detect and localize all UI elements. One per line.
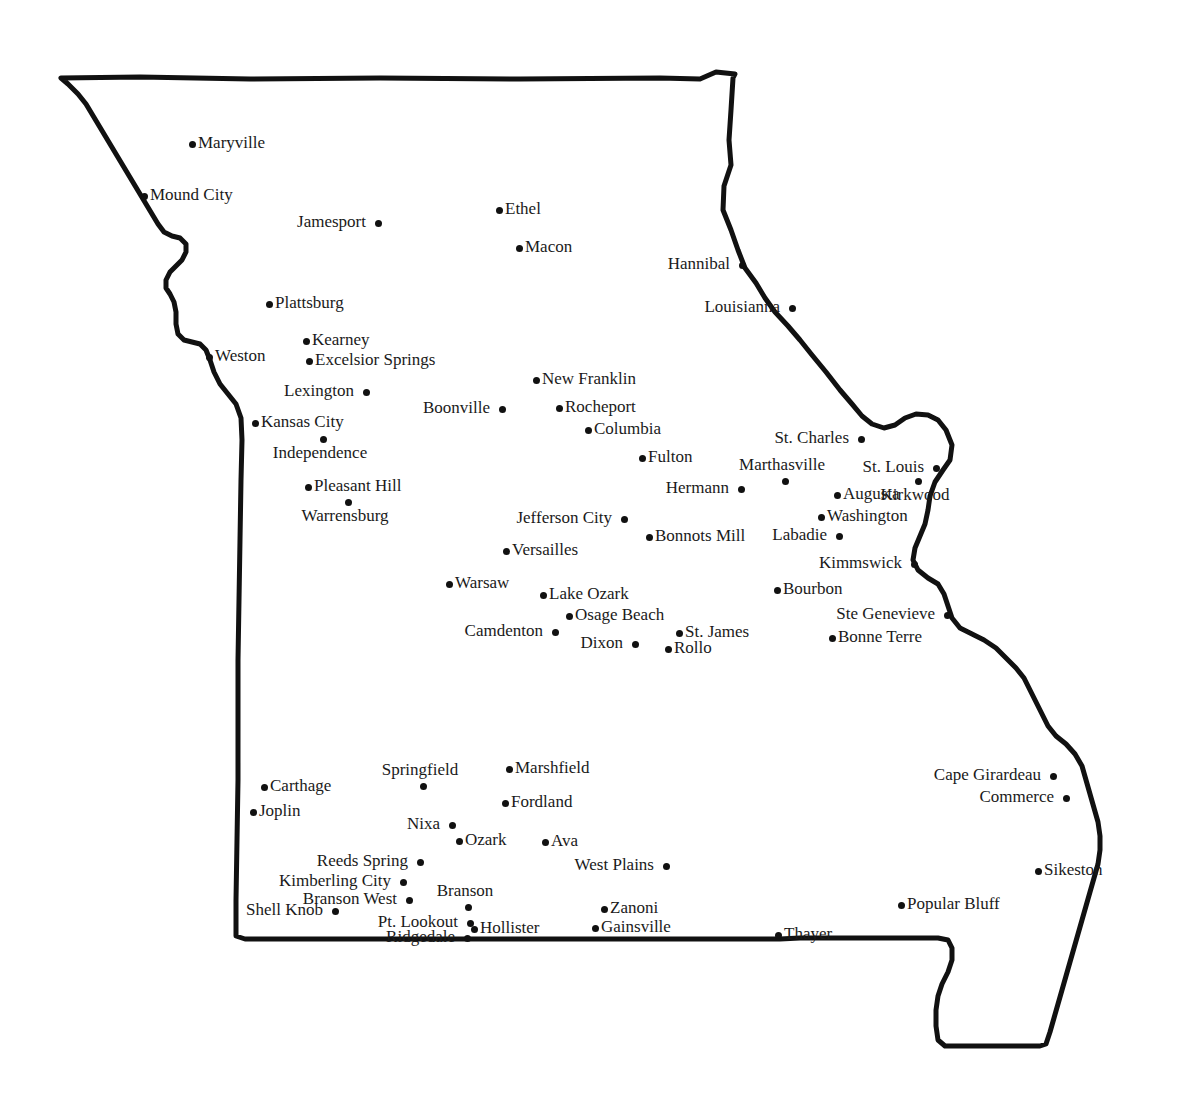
city-label: Marthasville bbox=[739, 456, 825, 473]
city-label: Jamesport bbox=[297, 213, 366, 230]
city-label: Ethel bbox=[505, 200, 541, 217]
city-dot-icon bbox=[601, 906, 608, 913]
city-label: Pleasant Hill bbox=[314, 477, 401, 494]
city-dot-icon bbox=[206, 354, 213, 361]
city-label: Columbia bbox=[594, 420, 661, 437]
city-dot-icon bbox=[676, 630, 683, 637]
city-label: Sikeston bbox=[1044, 861, 1103, 878]
city-dot-icon bbox=[400, 879, 407, 886]
city-label: Popular Bluff bbox=[907, 895, 1000, 912]
city-dot-icon bbox=[250, 809, 257, 816]
city-label: Macon bbox=[525, 238, 572, 255]
city-label: Versailles bbox=[512, 541, 578, 558]
city-label: Weston bbox=[215, 347, 266, 364]
city-dot-icon bbox=[141, 193, 148, 200]
city-label: Hermann bbox=[666, 479, 729, 496]
city-label: Joplin bbox=[259, 802, 301, 819]
city-dot-icon bbox=[1063, 795, 1070, 802]
city-dot-icon bbox=[502, 800, 509, 807]
city-label: Ozark bbox=[465, 831, 507, 848]
city-dot-icon bbox=[556, 405, 563, 412]
city-label: Rocheport bbox=[565, 398, 636, 415]
city-dot-icon bbox=[375, 220, 382, 227]
city-label: Maryville bbox=[198, 134, 265, 151]
city-label: Cape Girardeau bbox=[934, 766, 1041, 783]
city-dot-icon bbox=[496, 207, 503, 214]
city-dot-icon bbox=[465, 904, 472, 911]
city-dot-icon bbox=[639, 455, 646, 462]
city-dot-icon bbox=[406, 897, 413, 904]
city-label: Boonville bbox=[423, 399, 490, 416]
city-dot-icon bbox=[818, 514, 825, 521]
city-dot-icon bbox=[665, 646, 672, 653]
city-label: Fordland bbox=[511, 793, 572, 810]
city-label: Kimmswick bbox=[819, 554, 902, 571]
city-dot-icon bbox=[533, 377, 540, 384]
city-dot-icon bbox=[542, 839, 549, 846]
city-dot-icon bbox=[898, 902, 905, 909]
city-dot-icon bbox=[420, 783, 427, 790]
city-label: Ava bbox=[551, 832, 578, 849]
city-label: Marshfield bbox=[515, 759, 590, 776]
city-label: Lexington bbox=[284, 382, 354, 399]
city-dot-icon bbox=[621, 516, 628, 523]
state-border-outline bbox=[0, 0, 1185, 1110]
city-dot-icon bbox=[646, 534, 653, 541]
city-dot-icon bbox=[632, 641, 639, 648]
city-dot-icon bbox=[456, 838, 463, 845]
city-dot-icon bbox=[305, 484, 312, 491]
city-label: Bonnots Mill bbox=[655, 527, 745, 544]
city-dot-icon bbox=[471, 926, 478, 933]
city-label: Ste Genevieve bbox=[836, 605, 935, 622]
city-dot-icon bbox=[540, 592, 547, 599]
city-label: Augusta bbox=[843, 485, 900, 502]
city-label: Kansas City bbox=[261, 413, 344, 430]
city-label: New Franklin bbox=[542, 370, 636, 387]
city-label: Independence bbox=[273, 444, 367, 461]
city-label: Fulton bbox=[648, 448, 692, 465]
city-label: Labadie bbox=[772, 526, 827, 543]
city-label: Dixon bbox=[581, 634, 624, 651]
city-label: Jefferson City bbox=[516, 509, 612, 526]
city-label: Plattsburg bbox=[275, 294, 344, 311]
city-dot-icon bbox=[332, 908, 339, 915]
city-dot-icon bbox=[775, 932, 782, 939]
city-label: St. Louis bbox=[863, 458, 924, 475]
city-dot-icon bbox=[1050, 773, 1057, 780]
city-label: Warrensburg bbox=[301, 507, 388, 524]
city-label: Thayer bbox=[784, 925, 832, 942]
city-dot-icon bbox=[663, 863, 670, 870]
city-label: Osage Beach bbox=[575, 606, 664, 623]
city-label: Zanoni bbox=[610, 899, 658, 916]
city-dot-icon bbox=[915, 478, 922, 485]
city-label: Commerce bbox=[979, 788, 1054, 805]
city-label: Reeds Spring bbox=[317, 852, 408, 869]
city-dot-icon bbox=[552, 629, 559, 636]
city-dot-icon bbox=[189, 141, 196, 148]
city-dot-icon bbox=[306, 358, 313, 365]
city-label: Kearney bbox=[312, 331, 370, 348]
city-label: Washington bbox=[827, 507, 908, 524]
city-dot-icon bbox=[834, 492, 841, 499]
city-dot-icon bbox=[449, 822, 456, 829]
city-dot-icon bbox=[836, 533, 843, 540]
city-dot-icon bbox=[944, 612, 951, 619]
city-dot-icon bbox=[303, 338, 310, 345]
city-label: Hannibal bbox=[668, 255, 730, 272]
city-label: Excelsior Springs bbox=[315, 351, 435, 368]
city-dot-icon bbox=[266, 301, 273, 308]
city-dot-icon bbox=[789, 305, 796, 312]
city-dot-icon bbox=[738, 486, 745, 493]
city-label: Mound City bbox=[150, 186, 233, 203]
city-label: Springfield bbox=[382, 761, 459, 778]
city-label: Lake Ozark bbox=[549, 585, 629, 602]
city-dot-icon bbox=[417, 859, 424, 866]
city-dot-icon bbox=[499, 406, 506, 413]
city-label: Shell Knob bbox=[246, 901, 323, 918]
city-label: West Plains bbox=[575, 856, 654, 873]
city-dot-icon bbox=[911, 561, 918, 568]
city-label: Kimberling City bbox=[279, 872, 391, 889]
city-dot-icon bbox=[506, 766, 513, 773]
city-dot-icon bbox=[1035, 868, 1042, 875]
city-dot-icon bbox=[320, 436, 327, 443]
